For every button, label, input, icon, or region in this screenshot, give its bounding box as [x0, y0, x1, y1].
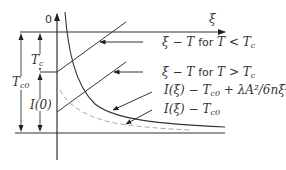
legend-3-pre: I(ξ) − T — [164, 83, 210, 97]
legend-1-word: for — [198, 36, 213, 49]
tc-sub: c — [39, 59, 43, 68]
xi-axis-label: ξ — [209, 13, 216, 25]
diagram-canvas: 0 ξ Tc Tc0 I(0) ξ − T for T < Tc ξ − T f… — [0, 0, 286, 170]
pointer-4 — [126, 110, 152, 124]
legend-I-corrected: I(ξ) − Tc0 + λA²/6nξ² — [164, 84, 286, 98]
legend-2-cond: T > T — [217, 65, 251, 79]
legend-2-word: for — [198, 66, 213, 79]
line-xi-T-below — [57, 22, 126, 72]
legend-1-math: ξ − T — [162, 35, 194, 49]
legend-3-post: + λA²/6nξ² — [220, 83, 286, 97]
legend-xi-T-below: ξ − T for T < Tc — [162, 36, 255, 50]
pointer-3 — [113, 92, 152, 110]
tc0-label: Tc0 — [12, 76, 30, 90]
legend-2-math: ξ − T — [162, 65, 194, 79]
legend-1-sub: c — [251, 41, 255, 50]
legend-4-sub: c0 — [210, 108, 220, 117]
legend-4-pre: I(ξ) − T — [164, 102, 210, 116]
line-xi-T-above — [57, 62, 126, 112]
legend-3-sub: c0 — [210, 89, 220, 98]
legend-xi-T-above: ξ − T for T > Tc — [162, 66, 255, 80]
tc-main: T — [31, 53, 39, 67]
legend-2-sub: c — [251, 71, 255, 80]
tc0-main: T — [12, 75, 20, 89]
legend-I-plain: I(ξ) − Tc0 — [164, 103, 220, 117]
vertical-axis-label: 0 — [45, 14, 52, 25]
legend-1-cond: T < T — [217, 35, 251, 49]
i0-label: I(0) — [30, 99, 52, 111]
tc0-sub: c0 — [20, 81, 30, 90]
tc-label: Tc — [31, 54, 44, 68]
